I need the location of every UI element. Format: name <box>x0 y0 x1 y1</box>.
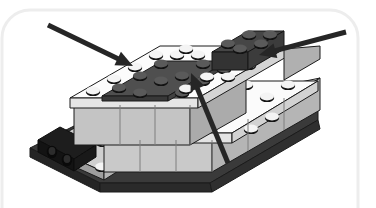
arrow-bottom-center <box>191 73 228 163</box>
arrow-right <box>259 32 346 58</box>
callout-arrows <box>0 0 376 208</box>
arrow-top-left <box>48 25 133 66</box>
lego-instruction-figure <box>0 0 376 208</box>
